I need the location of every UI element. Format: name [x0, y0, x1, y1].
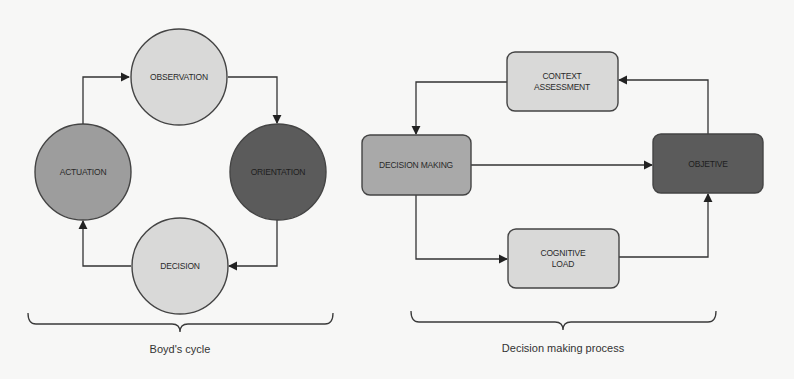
decision-making-process-brace — [411, 311, 716, 330]
node-decision-making: DECISION MAKING — [362, 135, 471, 195]
node-cognitive-load: COGNITIVE LOAD — [508, 229, 619, 288]
decision-label: DECISION — [160, 261, 200, 271]
edge-actuation-to-observation — [83, 77, 129, 125]
actuation-label: ACTUATION — [60, 167, 107, 177]
edge-observation-to-orientation — [228, 77, 277, 123]
boyds-cycle-label: Boyd's cycle — [150, 343, 211, 355]
edge-cognitive-load-to-objective — [619, 194, 708, 257]
orientation-label: ORIENTATION — [251, 167, 306, 177]
edge-decision-making-to-cognitive-load — [416, 195, 507, 259]
node-observation: OBSERVATION — [131, 29, 227, 125]
cognitive-load-label-line1: COGNITIVE — [541, 248, 586, 258]
node-actuation: ACTUATION — [35, 124, 131, 220]
decision-making-process-diagram: CONTEXT ASSESSMENT DECISION MAKING OBJET… — [362, 52, 763, 354]
objective-label: OBJETIVE — [688, 159, 728, 169]
node-decision: DECISION — [132, 218, 228, 314]
edge-decision-to-actuation — [83, 221, 131, 266]
node-context-assessment: CONTEXT ASSESSMENT — [507, 52, 618, 111]
decision-making-label: DECISION MAKING — [379, 160, 453, 170]
decision-making-process-label: Decision making process — [502, 342, 625, 354]
context-assessment-label-line2: ASSESSMENT — [534, 82, 590, 92]
node-objective: OBJETIVE — [653, 134, 763, 193]
cognitive-load-label-line2: LOAD — [552, 259, 574, 269]
boyds-cycle-diagram: OBSERVATION ORIENTATION DECISION ACTUATI… — [28, 29, 333, 355]
node-orientation: ORIENTATION — [230, 124, 326, 220]
edge-context-to-decision-making — [416, 82, 507, 134]
diagram-canvas: OBSERVATION ORIENTATION DECISION ACTUATI… — [0, 0, 794, 379]
observation-label: OBSERVATION — [150, 72, 208, 82]
edge-orientation-to-decision — [229, 220, 277, 266]
edge-objective-to-context — [619, 80, 708, 134]
context-assessment-label-line1: CONTEXT — [542, 71, 581, 81]
boyds-cycle-brace — [28, 313, 333, 332]
